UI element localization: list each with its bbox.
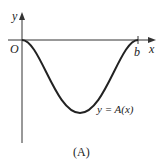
curve-label: y = A(x) <box>97 104 134 115</box>
caption: (A) <box>73 146 90 158</box>
y-axis-arrow-icon <box>19 12 25 20</box>
graph <box>0 0 161 159</box>
origin-label: O <box>10 43 19 55</box>
b-label: b <box>134 46 140 58</box>
x-axis-label: x <box>149 43 154 55</box>
y-axis-label: y <box>12 10 17 22</box>
